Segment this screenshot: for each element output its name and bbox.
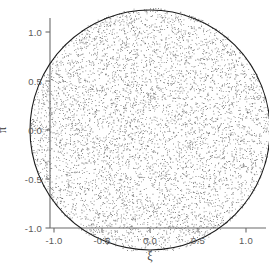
x-tick-label: 0.0 bbox=[143, 235, 157, 246]
scatter-plot-figure: -1.0-0.50.00.51.0 -1.0-0.50.00.51.0 ξ π bbox=[0, 0, 269, 269]
y-tick-label: 1.0 bbox=[0, 27, 42, 38]
y-tick-label: -1.0 bbox=[0, 223, 42, 234]
y-tick-label: -0.5 bbox=[0, 174, 42, 185]
x-tick-label: 0.5 bbox=[191, 235, 205, 246]
y-tick-label: 0.5 bbox=[0, 76, 42, 87]
x-tick-label: -1.0 bbox=[45, 235, 62, 246]
x-tick-label: -0.5 bbox=[93, 235, 110, 246]
y-axis-title: π bbox=[0, 127, 10, 133]
x-axis-title: ξ bbox=[147, 249, 152, 264]
x-axis-tick-marks bbox=[54, 228, 246, 233]
x-tick-label: 1.0 bbox=[239, 235, 253, 246]
